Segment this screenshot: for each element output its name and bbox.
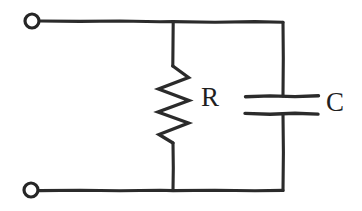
resistor-zigzag-symbol: [158, 66, 189, 143]
bottom-terminal-circle-icon: [24, 183, 38, 197]
resistor-label: R: [201, 84, 219, 111]
circuit-diagram-figure: R C: [0, 0, 362, 211]
capacitor-top-plate: [246, 96, 319, 97]
bottom-rail-wire: [40, 190, 284, 191]
capacitor-label: C: [326, 89, 344, 116]
top-terminal-circle-icon: [25, 14, 39, 28]
top-rail-wire: [41, 21, 284, 22]
circuit-schematic-canvas: [0, 0, 362, 211]
